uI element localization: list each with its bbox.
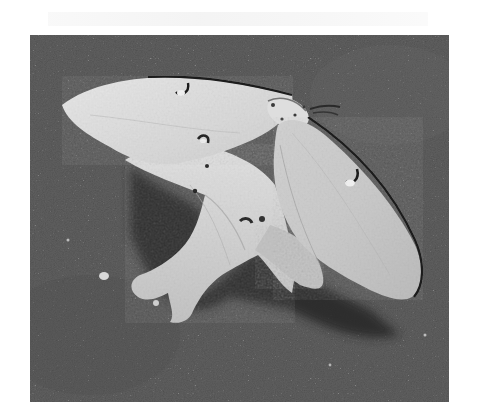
moth-photo-canvas <box>30 35 449 402</box>
faded-top-band <box>48 12 428 26</box>
moth-photo <box>30 35 449 402</box>
